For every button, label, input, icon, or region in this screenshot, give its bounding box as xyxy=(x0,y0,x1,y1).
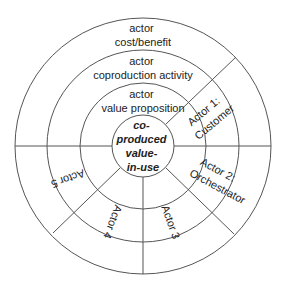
actor-4-label: Actor 4 xyxy=(101,204,124,241)
svg-text:Actor 5: Actor 5 xyxy=(50,167,87,190)
ring-label-cost-benefit: actor cost/benefit xyxy=(115,22,171,48)
ring-label-value-proposition: actor value proposition xyxy=(101,88,184,114)
ring-label-coproduction-activity: actor coproduction activity xyxy=(93,55,193,81)
svg-text:Actor 3: Actor 3 xyxy=(159,204,182,241)
actor-1-label: Actor 1: Customer xyxy=(182,90,236,142)
svg-text:Actor 1: Customer: Actor 1: Customer xyxy=(182,90,236,142)
actor-5-label: Actor 5 xyxy=(50,167,87,190)
svg-text:Actor 4: Actor 4 xyxy=(101,204,124,241)
actor-wheel-diagram: co- produced value- in-use actor cost/be… xyxy=(0,0,287,282)
actor-3-label: Actor 3 xyxy=(159,204,182,241)
